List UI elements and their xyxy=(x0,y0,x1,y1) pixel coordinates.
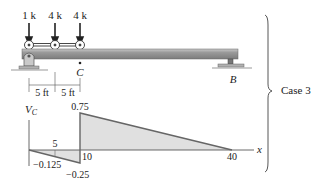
beam-diagram: 1 k 4 k 4 k xyxy=(11,9,252,98)
tick-label-40: 40 xyxy=(227,151,237,162)
point-b-label: B xyxy=(230,73,237,85)
tick-label-5: 5 xyxy=(53,138,58,149)
x-axis-label: x xyxy=(256,143,262,155)
wheel-carriage xyxy=(25,41,85,50)
tick-label-10: 10 xyxy=(82,151,92,162)
load-label-3: 4 k xyxy=(73,9,87,21)
tick-label-m0125: −0.125 xyxy=(33,159,61,170)
dimension-label-1: 5 ft xyxy=(35,87,49,98)
case-label: Case 3 xyxy=(281,84,311,96)
right-brace-icon xyxy=(265,15,272,172)
point-c-label: C xyxy=(76,66,84,78)
load-label-2: 4 k xyxy=(48,9,62,21)
tick-label-m025: −0.25 xyxy=(66,169,89,180)
influence-line-chart: VC 0.75 5 10 40 −0.125 −0.25 x xyxy=(25,101,262,180)
point-c-marker xyxy=(79,62,82,65)
dimension-label-2: 5 ft xyxy=(61,87,75,98)
diagram-canvas: 1 k 4 k 4 k xyxy=(0,0,323,185)
beam xyxy=(22,49,238,59)
roller-support-icon xyxy=(212,59,252,68)
tick-label-075: 0.75 xyxy=(71,101,89,112)
y-axis-label: VC xyxy=(25,103,38,117)
load-label-1: 1 k xyxy=(22,9,36,21)
